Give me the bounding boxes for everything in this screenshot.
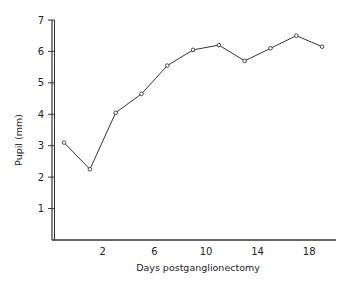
- x-tick-label: 14: [251, 246, 264, 257]
- x-axis-title: Days postganglionectomy: [136, 262, 260, 273]
- y-tick-label: 2: [38, 172, 44, 183]
- y-tick-label: 5: [38, 77, 44, 88]
- data-point-marker: [191, 48, 195, 52]
- y-tick-label: 4: [38, 109, 44, 120]
- x-tick-label: 6: [151, 246, 157, 257]
- data-point-marker: [320, 45, 324, 49]
- y-tick-label: 3: [38, 140, 44, 151]
- data-point-marker: [243, 59, 247, 63]
- data-point-marker: [140, 92, 144, 96]
- data-point-marker: [166, 64, 170, 68]
- y-axis: 1234567: [38, 15, 55, 241]
- line-chart: 1234567 26101418 Days postganglionectomy…: [0, 0, 342, 286]
- data-point-marker: [295, 34, 299, 38]
- x-tick-label: 18: [303, 246, 316, 257]
- y-tick-label: 1: [38, 203, 44, 214]
- y-tick-label: 7: [38, 15, 44, 26]
- data-series: [62, 34, 324, 171]
- x-tick-label: 2: [100, 246, 106, 257]
- data-point-marker: [269, 46, 273, 50]
- data-point-marker: [88, 167, 92, 171]
- series-line: [64, 36, 322, 170]
- x-tick-label: 10: [200, 246, 213, 257]
- data-point-marker: [217, 43, 221, 47]
- y-tick-label: 6: [38, 46, 44, 57]
- data-point-marker: [62, 141, 66, 145]
- x-axis: 26101418: [52, 240, 336, 257]
- y-axis-title: Pupil (mm): [13, 114, 24, 166]
- data-point-marker: [114, 111, 118, 115]
